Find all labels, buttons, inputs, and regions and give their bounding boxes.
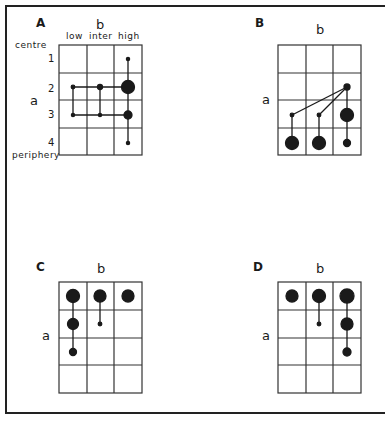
network-b xyxy=(286,84,354,150)
network-d xyxy=(286,289,354,356)
network-c xyxy=(67,290,135,356)
network-a xyxy=(71,57,134,144)
